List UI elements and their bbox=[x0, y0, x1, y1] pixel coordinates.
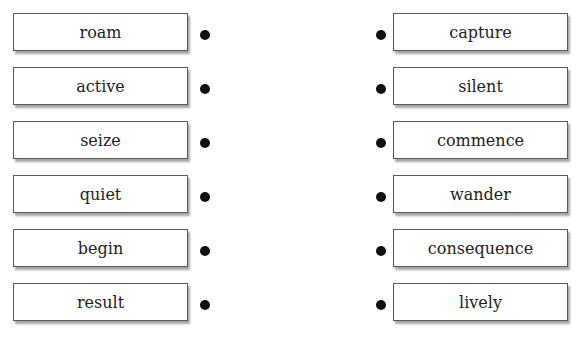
right-word-box[interactable]: lively bbox=[393, 283, 568, 321]
connector-dot[interactable] bbox=[376, 138, 386, 148]
connector-dot[interactable] bbox=[200, 192, 210, 202]
right-word-box[interactable]: commence bbox=[393, 121, 568, 159]
connector-dot[interactable] bbox=[200, 30, 210, 40]
left-word-box[interactable]: roam bbox=[13, 13, 188, 51]
connector-dot[interactable] bbox=[200, 138, 210, 148]
connector-dot[interactable] bbox=[200, 300, 210, 310]
connector-dot[interactable] bbox=[200, 246, 210, 256]
left-word-box[interactable]: active bbox=[13, 67, 188, 105]
right-word-box[interactable]: consequence bbox=[393, 229, 568, 267]
connector-dot[interactable] bbox=[376, 192, 386, 202]
left-word-box[interactable]: quiet bbox=[13, 175, 188, 213]
connector-dot[interactable] bbox=[376, 300, 386, 310]
connector-dot[interactable] bbox=[376, 30, 386, 40]
left-word-box[interactable]: result bbox=[13, 283, 188, 321]
right-column: capture silent commence wander consequen… bbox=[370, 0, 570, 338]
right-word-box[interactable]: wander bbox=[393, 175, 568, 213]
left-word-box[interactable]: begin bbox=[13, 229, 188, 267]
right-word-box[interactable]: silent bbox=[393, 67, 568, 105]
connector-dot[interactable] bbox=[200, 84, 210, 94]
right-word-box[interactable]: capture bbox=[393, 13, 568, 51]
connector-dot[interactable] bbox=[376, 246, 386, 256]
left-column: roam active seize quiet begin result bbox=[0, 0, 200, 338]
connector-dot[interactable] bbox=[376, 84, 386, 94]
left-word-box[interactable]: seize bbox=[13, 121, 188, 159]
